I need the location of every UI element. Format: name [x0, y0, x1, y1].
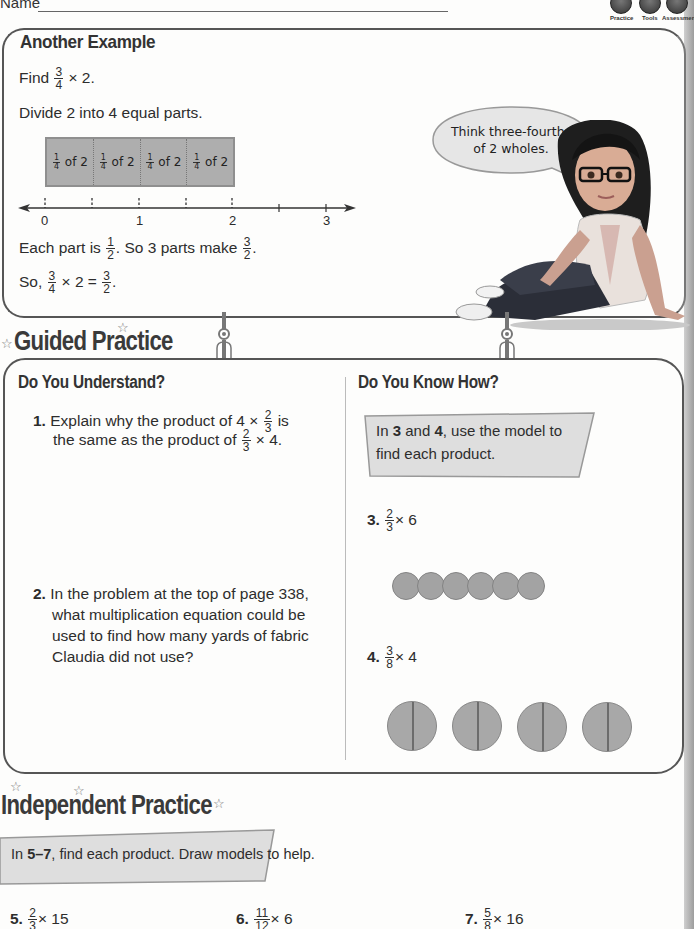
text: Claudia did not use? — [33, 646, 309, 667]
question-number: 2. — [33, 585, 46, 602]
text: , use the model to — [443, 422, 562, 439]
question-number: 6. — [236, 910, 249, 927]
segment-text: of 2 — [158, 155, 181, 169]
text: used to find how many yards of fabric — [33, 625, 309, 646]
fraction: 12 — [106, 236, 115, 261]
tick-label-2: 2 — [229, 213, 236, 228]
tools-label: Tools — [642, 15, 658, 21]
segment-text: of 2 — [205, 155, 228, 169]
denominator: 3 — [242, 441, 251, 453]
text: Each part is — [19, 239, 101, 256]
denominator: 4 — [146, 163, 153, 171]
tape-segment: 14 of 2 — [47, 139, 94, 185]
practice-icon[interactable] — [610, 0, 632, 14]
name-label: Name — [0, 0, 40, 11]
text: × 2 = — [62, 273, 97, 290]
q3-counter-model — [392, 572, 542, 604]
fraction: 23 — [28, 907, 37, 929]
divide-text: Divide 2 into 4 equal parts. — [19, 104, 203, 122]
question-number: 3. — [367, 511, 380, 528]
half-circle-model — [452, 701, 502, 751]
counter-circle — [517, 572, 545, 600]
find-expression: Find 34 × 2. — [19, 66, 95, 91]
text: , find each product. Draw models to help… — [51, 846, 315, 862]
text: In — [11, 846, 27, 862]
fraction: 34 — [54, 66, 63, 91]
text: × 15 — [38, 910, 69, 927]
instruction-text-5-7: In 5–7, find each product. Draw models t… — [11, 844, 315, 864]
panel-connector-right — [497, 312, 517, 362]
denominator: 4 — [54, 79, 63, 91]
half-circle-model — [582, 702, 632, 752]
fraction: 58 — [483, 907, 492, 929]
denominator: 8 — [385, 658, 394, 670]
fraction: 32 — [243, 236, 252, 261]
question-3: 3. 23× 6 — [367, 508, 417, 533]
text: is — [278, 412, 289, 429]
assessment-icon[interactable] — [666, 0, 688, 14]
tape-segment: 14 of 2 — [94, 139, 141, 185]
panel-connector-left — [214, 312, 234, 362]
denominator: 3 — [385, 521, 394, 533]
guided-practice-title: Guided Practice — [14, 326, 173, 357]
column-divider — [345, 377, 346, 760]
star-icon: ☆ — [1, 336, 13, 351]
tape-segment: 14 of 2 — [187, 139, 233, 185]
text: 5–7 — [27, 846, 51, 862]
problem-6: 6. 1112× 6 — [236, 907, 293, 929]
text: . — [112, 273, 116, 290]
practice-label: Practice — [610, 15, 633, 21]
counter-circle — [392, 572, 420, 600]
fraction: 14 — [53, 154, 60, 171]
fraction: 23 — [242, 428, 251, 453]
star-icon: ☆ — [213, 796, 225, 811]
question-number: 1. — [33, 412, 46, 429]
denominator: 12 — [254, 920, 269, 929]
text: find each product. — [376, 442, 562, 465]
header-icons: Practice Tools Assessment — [606, 0, 688, 26]
denominator: 2 — [243, 249, 252, 261]
text: what multiplication equation could be — [33, 604, 309, 625]
tick-label-1: 1 — [136, 213, 143, 228]
tape-segment: 14 of 2 — [141, 139, 188, 185]
segment-text: of 2 — [112, 155, 135, 169]
text: 3 — [393, 422, 401, 439]
question-number: 4. — [367, 648, 380, 665]
each-part-text: Each part is 12. So 3 parts make 32. — [19, 236, 257, 261]
tick-label-0: 0 — [41, 213, 48, 228]
denominator: 4 — [48, 283, 57, 295]
fraction: 32 — [102, 270, 111, 295]
fraction: 14 — [100, 154, 107, 171]
student-character-illustration — [440, 120, 690, 330]
fraction: 38 — [385, 645, 394, 670]
text: 4 — [434, 422, 442, 439]
do-you-know-how-title: Do You Know How? — [358, 372, 499, 393]
fraction: 14 — [146, 154, 153, 171]
assessment-label: Assessment — [662, 15, 694, 21]
problem-7: 7. 58× 16 — [465, 907, 524, 929]
another-example-title: Another Example — [20, 31, 155, 53]
fraction: 34 — [48, 270, 57, 295]
find-suffix: × 2. — [68, 69, 94, 86]
independent-practice-title: Independent Practice — [1, 790, 212, 821]
denominator: 3 — [28, 920, 37, 929]
question-2: 2. In the problem at the top of page 338… — [33, 583, 309, 667]
denominator: 2 — [102, 283, 111, 295]
text: × 4 — [395, 648, 417, 665]
name-input-line[interactable] — [38, 11, 448, 12]
denominator: 8 — [483, 920, 492, 929]
text: . So 3 parts make — [116, 239, 237, 256]
text: × 4. — [256, 431, 282, 448]
tick-label-3: 3 — [323, 213, 330, 228]
question-4: 4. 38× 4 — [367, 645, 417, 670]
question-number: 7. — [465, 910, 478, 927]
half-circle-model — [387, 701, 437, 751]
question-1: 1. Explain why the product of 4 × 23 is … — [33, 409, 289, 453]
text: Explain why the product of 4 × — [50, 412, 258, 429]
segment-text: of 2 — [65, 155, 88, 169]
tools-icon[interactable] — [639, 0, 661, 14]
text: In — [376, 422, 393, 439]
text: . — [252, 239, 256, 256]
text: × 16 — [493, 910, 524, 927]
fraction: 23 — [385, 508, 394, 533]
